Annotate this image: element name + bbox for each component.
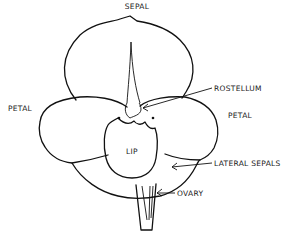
label-petal-right: PETAL xyxy=(228,111,253,120)
left-petal xyxy=(39,97,127,163)
label-rostellum: ROSTELLUM xyxy=(214,84,262,93)
label-petal-left: PETAL xyxy=(8,104,33,113)
label-sepal: SEPAL xyxy=(125,2,150,11)
label-lip: LIP xyxy=(126,147,138,156)
sepal-midrib xyxy=(127,42,131,103)
label-ovary: OVARY xyxy=(177,189,203,198)
rostellum-leader xyxy=(143,88,212,108)
lateral-sepals-leader xyxy=(172,163,212,167)
dorsal-sepal xyxy=(64,16,193,100)
label-lateral-sepals: LATERAL SEPALS xyxy=(214,159,281,168)
orchid-diagram: SEPAL ROSTELLUM PETAL PETAL LIP LATERAL … xyxy=(0,0,296,241)
column xyxy=(125,103,141,118)
